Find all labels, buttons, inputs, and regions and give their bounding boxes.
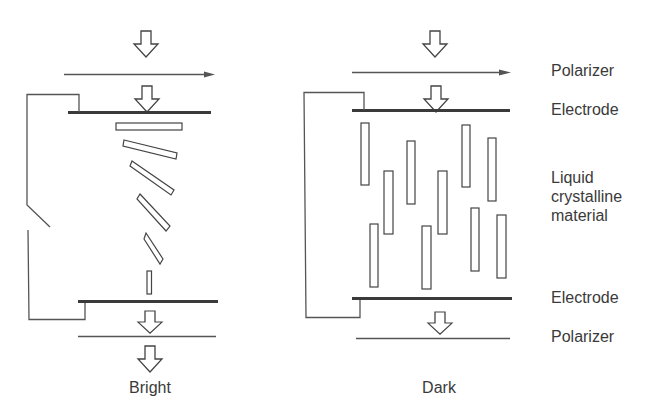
label-liquid-crystal: Liquid crystalline material xyxy=(551,168,622,225)
circuit-wire-left xyxy=(27,95,85,320)
light-arrow-icon xyxy=(134,31,158,57)
label-bottom-electrode: Electrode xyxy=(551,288,619,307)
light-arrow-icon xyxy=(428,312,452,334)
light-arrow-icon xyxy=(138,311,162,333)
label-top-electrode: Electrode xyxy=(551,100,619,119)
label-top-polarizer: Polarizer xyxy=(551,61,614,80)
caption-bright: Bright xyxy=(100,379,200,397)
label-bottom-polarizer: Polarizer xyxy=(551,327,614,346)
bright-panel xyxy=(27,31,218,372)
top-polarizer-right xyxy=(352,70,511,76)
light-arrow-icon xyxy=(138,346,162,372)
caption-dark: Dark xyxy=(389,379,489,397)
lcd-diagram: Polarizer Electrode Liquid crystalline m… xyxy=(0,0,655,417)
dark-panel xyxy=(304,31,512,339)
circuit-wire-right xyxy=(304,93,364,318)
aligned-molecules xyxy=(361,123,506,289)
light-arrow-icon xyxy=(135,86,159,112)
twisted-molecules xyxy=(116,123,182,294)
light-arrow-icon xyxy=(424,86,448,112)
top-polarizer-left xyxy=(64,72,215,78)
light-arrow-icon xyxy=(423,31,447,57)
